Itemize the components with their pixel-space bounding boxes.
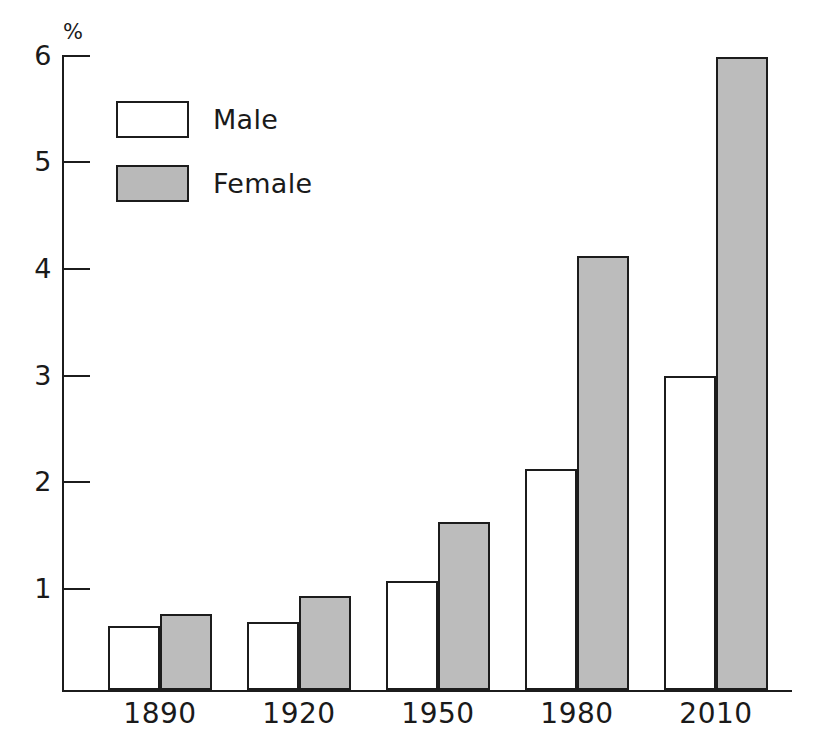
legend-item-male: Male <box>116 100 312 138</box>
legend-label-male: Male <box>213 106 278 133</box>
y-tick-5 <box>64 161 90 163</box>
bar-male-1890 <box>108 626 160 690</box>
x-label-1950: 1950 <box>378 700 498 728</box>
bar-male-1980 <box>525 469 577 690</box>
bar-female-1920 <box>299 596 351 690</box>
bar-female-1980 <box>577 256 629 690</box>
legend: Male Female <box>116 100 312 228</box>
legend-item-female: Female <box>116 164 312 202</box>
y-tick-6 <box>64 55 90 57</box>
bar-female-1890 <box>160 614 212 690</box>
y-axis-unit-label: % <box>63 22 83 43</box>
bar-male-1950 <box>386 581 438 690</box>
bar-female-2010 <box>716 57 768 690</box>
y-axis-line <box>62 55 64 692</box>
bar-female-1950 <box>438 522 490 690</box>
x-label-2010: 2010 <box>656 700 776 728</box>
x-label-1890: 1890 <box>100 700 220 728</box>
x-label-1920: 1920 <box>239 700 359 728</box>
y-tick-2 <box>64 481 90 483</box>
bar-male-2010 <box>664 376 716 690</box>
y-tick-label-1: 1 <box>22 575 52 602</box>
bar-chart: % 6 5 4 3 2 1 Male Female 1890 1920 1950 <box>0 0 813 745</box>
y-tick-label-5: 5 <box>22 148 52 175</box>
y-tick-label-4: 4 <box>22 255 52 282</box>
y-tick-label-2: 2 <box>22 468 52 495</box>
y-tick-label-3: 3 <box>22 362 52 389</box>
y-tick-3 <box>64 375 90 377</box>
y-tick-4 <box>64 268 90 270</box>
legend-label-female: Female <box>213 170 312 197</box>
legend-swatch-male-icon <box>116 101 189 138</box>
x-label-1980: 1980 <box>517 700 637 728</box>
y-tick-1 <box>64 588 90 590</box>
legend-swatch-female-icon <box>116 165 189 202</box>
y-tick-label-6: 6 <box>22 42 52 69</box>
bar-male-1920 <box>247 622 299 690</box>
x-axis-line <box>62 690 792 692</box>
